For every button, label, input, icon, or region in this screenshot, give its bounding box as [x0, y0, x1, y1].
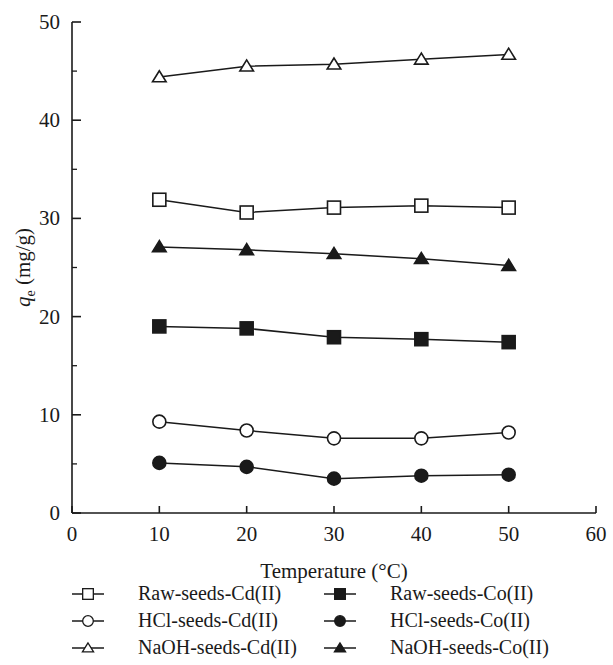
- series-naoh-seeds-cd-ii: [153, 48, 516, 82]
- marker-circle-filled: [335, 616, 346, 627]
- marker-circle-filled: [153, 456, 166, 469]
- y-axis-tick-label: 10: [39, 403, 60, 427]
- x-axis-tick-label: 10: [149, 522, 170, 546]
- x-axis-tick-label: 20: [236, 522, 257, 546]
- marker-square-open: [153, 193, 166, 206]
- marker-square-open: [502, 201, 515, 214]
- y-axis-tick-label: 50: [39, 10, 60, 34]
- line-chart: 010203040506001020304050Temperature (°C)…: [0, 0, 613, 665]
- y-axis-tick-label: 30: [39, 206, 60, 230]
- marker-circle-open: [502, 426, 515, 439]
- series-raw-seeds-co-ii: [153, 320, 515, 349]
- marker-triangle-open: [502, 48, 516, 59]
- legend-label: HCl-seeds-Cd(II): [138, 609, 278, 632]
- legend: Raw-seeds-Cd(II)HCl-seeds-Cd(II)NaOH-see…: [72, 582, 549, 659]
- legend-label: HCl-seeds-Co(II): [390, 609, 530, 632]
- legend-label: NaOH-seeds-Co(II): [390, 636, 549, 659]
- marker-square-filled: [415, 333, 428, 346]
- marker-triangle-filled: [153, 241, 167, 252]
- x-axis-tick-label: 50: [498, 522, 519, 546]
- marker-square-filled: [502, 336, 515, 349]
- y-axis-tick-label: 0: [50, 501, 61, 525]
- y-axis-tick-label: 40: [39, 108, 60, 132]
- chart-figure: 010203040506001020304050Temperature (°C)…: [0, 0, 613, 665]
- marker-circle-filled: [502, 468, 515, 481]
- legend-item-hcl-seeds-co-ii[interactable]: HCl-seeds-Co(II): [324, 609, 530, 632]
- marker-circle-filled: [328, 472, 341, 485]
- marker-square-filled: [335, 589, 346, 600]
- legend-item-raw-seeds-co-ii[interactable]: Raw-seeds-Co(II): [324, 582, 533, 605]
- marker-circle-open: [83, 616, 94, 627]
- svg-text:qe (mg/g): qe (mg/g): [11, 228, 38, 307]
- series-hcl-seeds-cd-ii: [153, 415, 515, 445]
- legend-item-hcl-seeds-cd-ii[interactable]: HCl-seeds-Cd(II): [72, 609, 278, 632]
- marker-circle-open: [240, 424, 253, 437]
- series-naoh-seeds-co-ii: [153, 241, 516, 271]
- marker-circle-filled: [415, 469, 428, 482]
- marker-circle-open: [328, 432, 341, 445]
- legend-label: Raw-seeds-Cd(II): [138, 582, 281, 605]
- marker-circle-filled: [240, 460, 253, 473]
- legend-item-naoh-seeds-co-ii[interactable]: NaOH-seeds-Co(II): [324, 636, 549, 659]
- series-hcl-seeds-co-ii: [153, 456, 515, 485]
- marker-circle-open: [153, 415, 166, 428]
- marker-square-open: [240, 206, 253, 219]
- x-axis-tick-label: 30: [324, 522, 345, 546]
- marker-square-filled: [328, 331, 341, 344]
- x-axis-tick-label: 40: [411, 522, 432, 546]
- legend-item-naoh-seeds-cd-ii[interactable]: NaOH-seeds-Cd(II): [72, 636, 297, 659]
- marker-square-open: [328, 201, 341, 214]
- legend-label: Raw-seeds-Co(II): [390, 582, 533, 605]
- marker-square-filled: [153, 320, 166, 333]
- x-axis-tick-label: 0: [67, 522, 78, 546]
- marker-square-open: [415, 199, 428, 212]
- legend-item-raw-seeds-cd-ii[interactable]: Raw-seeds-Cd(II): [72, 582, 281, 605]
- marker-circle-open: [415, 432, 428, 445]
- marker-square-filled: [240, 322, 253, 335]
- y-axis-title: qe (mg/g): [11, 228, 38, 307]
- legend-label: NaOH-seeds-Cd(II): [138, 636, 297, 659]
- x-axis-tick-label: 60: [586, 522, 607, 546]
- marker-square-open: [83, 589, 94, 600]
- y-axis-tick-label: 20: [39, 305, 60, 329]
- x-axis-title: Temperature (°C): [260, 559, 407, 583]
- series-raw-seeds-cd-ii: [153, 193, 515, 219]
